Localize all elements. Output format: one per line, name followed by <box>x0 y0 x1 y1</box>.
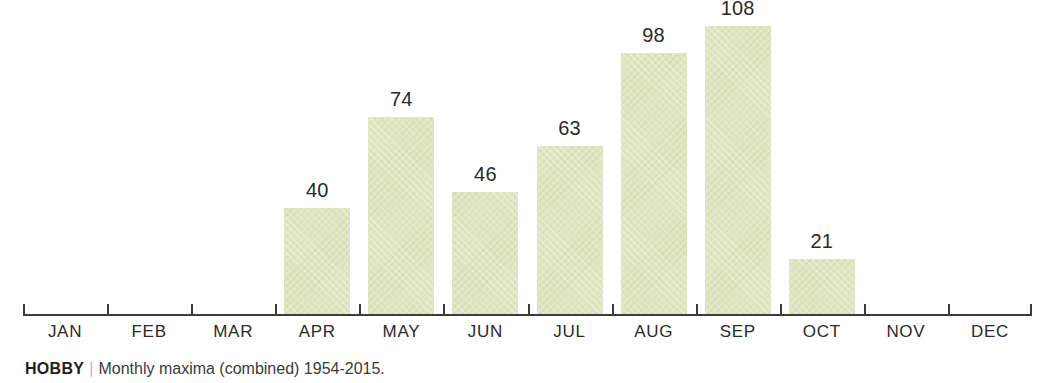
bar-chart-figure: 407446639810821 JANFEBMARAPRMAYJUNJULAUG… <box>0 0 1051 383</box>
tick-mark <box>107 304 109 315</box>
month-label-aug: AUG <box>612 322 696 342</box>
month-label-jan: JAN <box>23 322 107 342</box>
bar-slot: 40 <box>275 8 359 315</box>
bar-value-label-oct: 21 <box>810 230 833 253</box>
bar-sep[interactable] <box>705 26 771 315</box>
month-label-mar: MAR <box>191 322 275 342</box>
tick-mark <box>612 304 614 315</box>
month-label-sep: SEP <box>696 322 780 342</box>
bar-slot <box>107 8 191 315</box>
figure-caption: HOBBY|Monthly maxima (combined) 1954-201… <box>25 360 385 378</box>
bar-slot: 46 <box>443 8 527 315</box>
tick-mark <box>23 304 25 315</box>
bar-value-label-apr: 40 <box>306 179 329 202</box>
month-label-jun: JUN <box>443 322 527 342</box>
month-label-nov: NOV <box>864 322 948 342</box>
tick-mark <box>359 304 361 315</box>
month-label-dec: DEC <box>948 322 1032 342</box>
tick-mark <box>780 304 782 315</box>
tick-mark <box>191 304 193 315</box>
month-label-oct: OCT <box>780 322 864 342</box>
bar-series: 407446639810821 <box>23 8 1032 315</box>
bar-slot <box>948 8 1032 315</box>
tick-mark <box>864 304 866 315</box>
caption-separator: | <box>84 360 98 377</box>
tick-mark <box>948 304 950 315</box>
bar-may[interactable] <box>368 117 434 315</box>
caption-description: Monthly maxima (combined) 1954-2015. <box>98 360 384 377</box>
bar-slot <box>191 8 275 315</box>
bar-value-label-sep: 108 <box>721 0 755 20</box>
bar-jun[interactable] <box>452 192 518 315</box>
tick-mark <box>443 304 445 315</box>
tick-mark <box>696 304 698 315</box>
bar-value-label-jun: 46 <box>474 163 497 186</box>
tick-mark <box>528 304 530 315</box>
month-label-may: MAY <box>359 322 443 342</box>
bar-jul[interactable] <box>537 146 603 315</box>
bar-aug[interactable] <box>621 53 687 315</box>
x-axis-ticks <box>23 304 1032 315</box>
bar-slot <box>23 8 107 315</box>
bar-value-label-may: 74 <box>390 88 413 111</box>
tick-mark <box>1030 304 1032 315</box>
bar-apr[interactable] <box>284 208 350 315</box>
bar-value-label-aug: 98 <box>642 24 665 47</box>
month-label-jul: JUL <box>528 322 612 342</box>
bar-slot: 21 <box>780 8 864 315</box>
clipped-title-fragment <box>28 0 548 3</box>
month-label-feb: FEB <box>107 322 191 342</box>
bar-slot: 108 <box>696 8 780 315</box>
caption-source: HOBBY <box>25 360 84 377</box>
x-axis-tick-labels: JANFEBMARAPRMAYJUNJULAUGSEPOCTNOVDEC <box>23 322 1032 346</box>
bar-value-label-jul: 63 <box>558 117 581 140</box>
bar-slot: 74 <box>359 8 443 315</box>
month-label-apr: APR <box>275 322 359 342</box>
bar-slot: 98 <box>612 8 696 315</box>
bar-slot <box>864 8 948 315</box>
tick-mark <box>275 304 277 315</box>
bar-slot: 63 <box>528 8 612 315</box>
